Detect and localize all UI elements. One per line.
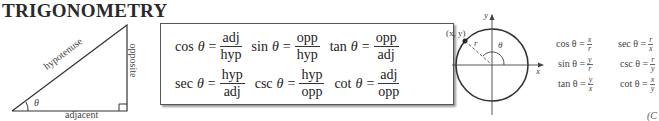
definitions-box: cosθ=adjhyp sinθ=opphyp tanθ=oppadj secθ… (160, 23, 454, 105)
circle-theta-label: θ (498, 40, 502, 50)
radius-label: r (474, 38, 478, 48)
opposite-label: opposite (128, 44, 139, 78)
csc-definition: cscθ=hypopp (255, 67, 325, 100)
cot-definition: cotθ=adjopp (334, 67, 399, 100)
unit-circle-diagram (452, 10, 552, 120)
tan-definition: tanθ=oppadj (330, 30, 399, 63)
adjacent-label: adjacent (65, 109, 98, 120)
sec-definition: secθ=hypadj (175, 67, 245, 100)
point-label: (x, y) (446, 28, 466, 38)
sec-rx: sec θ =rx (618, 36, 653, 53)
csc-ry: csc θ =ry (620, 56, 655, 73)
tan-yx: tan θ =yx (558, 76, 620, 93)
cos-definition: cosθ=adjhyp (175, 30, 242, 63)
sin-yr: sin θ =yr (558, 56, 620, 73)
sin-definition: sinθ=opphyp (252, 30, 320, 63)
x-axis-label: x (536, 66, 540, 76)
theta-label: θ (34, 97, 39, 108)
y-axis-label: y (484, 10, 488, 20)
cot-xy: cot θ =xy (620, 76, 655, 93)
corner-text: (C (647, 110, 657, 121)
definitions-row-2: secθ=hypadj cscθ=hypopp cotθ=adjopp (175, 67, 409, 100)
definitions-row-1: cosθ=adjhyp sinθ=opphyp tanθ=oppadj (175, 30, 409, 63)
cos-xr: cos θ =xr (556, 36, 618, 53)
